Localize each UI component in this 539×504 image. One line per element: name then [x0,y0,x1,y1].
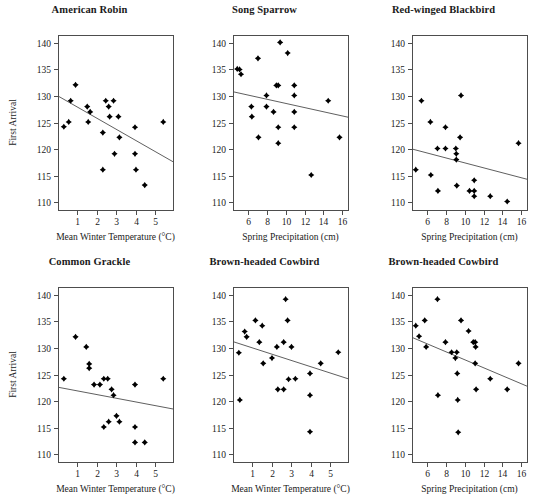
x-tick-label: 1 [250,469,255,479]
data-point [435,392,441,398]
y-tick-label: 135 [212,317,227,327]
data-point [113,413,119,419]
data-point [256,339,262,345]
data-point [132,381,138,387]
panel-1: American Robin11011512012513013514012345… [0,0,179,252]
data-point [275,124,281,130]
x-axis-label: Spring Precipitation (cm) [242,232,339,243]
x-tick-label: 8 [444,469,449,479]
y-tick-label: 110 [212,198,226,208]
data-point [418,98,424,104]
x-tick-label: 4 [134,469,139,479]
data-point [132,424,138,430]
data-point [106,103,112,109]
data-point [142,182,148,188]
data-point [487,376,493,382]
data-point-group [61,334,167,446]
data-point [244,334,250,340]
data-point [263,103,269,109]
y-axis-label: First Arrival [8,99,18,146]
y-tick-label: 120 [37,397,52,407]
data-point [100,167,106,173]
data-point [269,355,275,361]
axis-frame [234,288,349,463]
data-point [291,109,297,115]
data-point [471,177,477,183]
y-tick-label: 130 [212,92,227,102]
x-tick-label: 16 [338,217,348,227]
y-tick-label: 130 [391,92,406,102]
data-point [413,323,419,329]
x-tick-label: 10 [461,469,471,479]
data-point [252,317,258,323]
data-point [487,193,493,199]
data-point [160,376,166,382]
x-tick-label: 8 [444,217,449,227]
data-point-group [236,296,342,435]
x-tick-label: 5 [153,217,158,227]
y-tick-label: 135 [391,317,406,327]
data-point [455,397,461,403]
regression-line [58,387,173,409]
y-tick-label: 115 [391,172,405,182]
y-tick-label: 125 [391,119,406,129]
panel-3: Red-winged Blackbird11011512012513013514… [354,0,533,252]
x-tick-label: 16 [517,469,527,479]
data-point [260,360,266,366]
y-tick-label: 125 [37,371,52,381]
y-tick-label: 115 [37,172,51,182]
data-point [291,92,297,98]
regression-line [233,92,348,117]
data-point [259,323,265,329]
panel-4: Common Grackle11011512012513013514012345… [0,252,179,504]
data-point [116,134,122,140]
regression-line [412,337,527,386]
data-point [72,334,78,340]
y-tick-label: 115 [37,424,51,434]
data-point [336,134,342,140]
data-point [109,386,115,392]
data-point [291,82,297,88]
x-tick-label: 3 [114,469,119,479]
data-point [107,114,113,120]
data-point [91,381,97,387]
y-tick-label: 135 [391,65,406,75]
y-tick-label: 130 [37,344,52,354]
x-tick-label: 4 [134,217,139,227]
x-tick-label: 6 [425,217,430,227]
panel-5: Brown-headed Cowbird11011512012513013514… [175,252,354,504]
x-tick-label: 12 [480,217,490,227]
data-point [110,98,116,104]
x-axis-label: Mean Winter Temperature (°C) [231,484,350,495]
data-point [142,439,148,445]
x-tick-label: 12 [301,217,311,227]
data-point [458,317,464,323]
data-point [116,419,122,425]
data-point [442,124,448,130]
plot-area: 1101151201251301351406810121416Spring Pr… [175,0,354,252]
data-point [504,198,510,204]
y-tick-label: 125 [212,371,227,381]
y-tick-label: 125 [37,119,52,129]
y-tick-label: 140 [212,291,227,301]
plot-area: 11011512012513013514012345Mean Winter Te… [175,252,354,504]
data-point [248,103,254,109]
data-point-group [61,82,167,188]
y-tick-label: 135 [37,317,52,327]
data-point [281,339,287,345]
data-point [335,349,341,355]
data-point [473,386,479,392]
figure-multi-panel-scatter: American Robin11011512012513013514012345… [0,0,539,504]
x-axis-label: Mean Winter Temperature (°C) [56,232,175,243]
data-point [242,328,248,334]
data-point [288,344,294,350]
y-tick-label: 115 [391,424,405,434]
data-point [106,419,112,425]
y-tick-label: 110 [37,450,51,460]
data-point [453,157,459,163]
x-tick-label: 14 [319,217,329,227]
x-tick-label: 1 [75,469,80,479]
x-axis-label: Mean Winter Temperature (°C) [56,484,175,495]
plot-area: 1101151201251301351406810121416Spring Pr… [354,0,533,252]
data-point [103,98,109,104]
